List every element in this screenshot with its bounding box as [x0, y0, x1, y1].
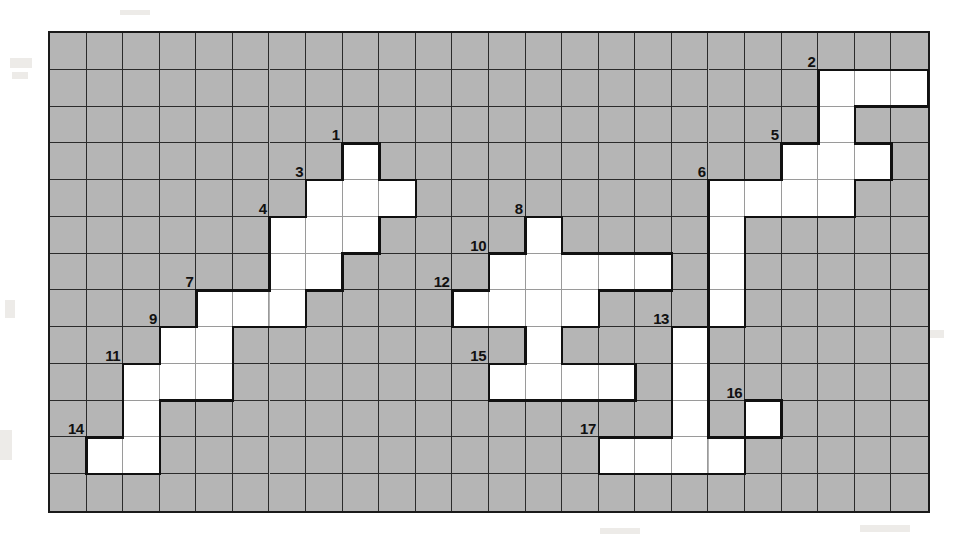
crossword-grid[interactable] — [48, 31, 930, 513]
open-cell[interactable] — [562, 364, 599, 401]
blocked-cell — [233, 33, 270, 70]
blocked-cell — [891, 364, 928, 401]
open-cell[interactable] — [782, 143, 819, 180]
open-cell[interactable] — [452, 290, 489, 327]
blocked-cell — [196, 254, 233, 291]
blocked-cell — [343, 33, 380, 70]
open-cell[interactable] — [489, 364, 526, 401]
open-cell[interactable] — [709, 290, 746, 327]
open-cell[interactable] — [818, 107, 855, 144]
blocked-cell — [891, 327, 928, 364]
paper-speckle — [12, 72, 28, 79]
open-cell[interactable] — [489, 254, 526, 291]
blocked-cell — [672, 180, 709, 217]
cell-outline — [817, 105, 820, 144]
open-cell[interactable] — [270, 217, 307, 254]
cell-outline — [817, 69, 820, 108]
open-cell[interactable] — [306, 217, 343, 254]
blocked-cell — [709, 33, 746, 70]
blocked-cell — [416, 290, 453, 327]
open-cell[interactable] — [599, 254, 636, 291]
open-cell[interactable] — [709, 437, 746, 474]
cell-outline — [634, 473, 673, 476]
cell-outline — [598, 473, 637, 476]
open-cell[interactable] — [562, 290, 599, 327]
cell-outline — [159, 399, 162, 438]
blocked-cell — [160, 290, 197, 327]
open-cell[interactable] — [160, 327, 197, 364]
open-cell[interactable] — [818, 143, 855, 180]
open-cell[interactable] — [87, 437, 124, 474]
open-cell[interactable] — [635, 437, 672, 474]
cell-outline — [561, 326, 564, 365]
open-cell[interactable] — [526, 254, 563, 291]
blocked-cell — [489, 107, 526, 144]
open-cell[interactable] — [306, 180, 343, 217]
open-cell[interactable] — [562, 254, 599, 291]
open-cell[interactable] — [599, 437, 636, 474]
open-cell[interactable] — [672, 364, 709, 401]
open-cell[interactable] — [709, 180, 746, 217]
open-cell[interactable] — [196, 364, 233, 401]
open-cell[interactable] — [343, 180, 380, 217]
open-cell[interactable] — [233, 290, 270, 327]
open-cell[interactable] — [489, 290, 526, 327]
cell-outline — [598, 399, 637, 402]
blocked-cell — [50, 364, 87, 401]
blocked-cell — [379, 437, 416, 474]
open-cell[interactable] — [343, 217, 380, 254]
open-cell[interactable] — [709, 254, 746, 291]
open-cell[interactable] — [343, 143, 380, 180]
cell-outline — [744, 289, 747, 328]
blocked-cell — [855, 107, 892, 144]
open-cell[interactable] — [818, 70, 855, 107]
cell-outline — [561, 326, 600, 329]
open-cell[interactable] — [526, 364, 563, 401]
open-cell[interactable] — [672, 401, 709, 438]
open-cell[interactable] — [123, 437, 160, 474]
open-cell[interactable] — [745, 401, 782, 438]
cell-outline — [341, 252, 380, 255]
blocked-cell — [855, 254, 892, 291]
blocked-cell — [709, 70, 746, 107]
open-cell[interactable] — [379, 180, 416, 217]
open-cell[interactable] — [526, 327, 563, 364]
cell-outline — [195, 289, 234, 292]
blocked-cell — [562, 437, 599, 474]
open-cell[interactable] — [672, 327, 709, 364]
open-cell[interactable] — [745, 180, 782, 217]
open-cell[interactable] — [672, 437, 709, 474]
open-cell[interactable] — [526, 217, 563, 254]
open-cell[interactable] — [599, 364, 636, 401]
open-cell[interactable] — [818, 180, 855, 217]
open-cell[interactable] — [855, 143, 892, 180]
open-cell[interactable] — [270, 254, 307, 291]
open-cell[interactable] — [891, 70, 928, 107]
cell-outline — [378, 216, 381, 255]
open-cell[interactable] — [160, 364, 197, 401]
blocked-cell — [855, 290, 892, 327]
blocked-cell — [891, 474, 928, 511]
open-cell[interactable] — [196, 290, 233, 327]
open-cell[interactable] — [306, 254, 343, 291]
open-cell[interactable] — [855, 70, 892, 107]
open-cell[interactable] — [782, 180, 819, 217]
open-cell[interactable] — [709, 217, 746, 254]
cell-outline — [451, 289, 490, 292]
blocked-cell — [818, 254, 855, 291]
blocked-cell — [672, 70, 709, 107]
open-cell[interactable] — [123, 364, 160, 401]
cell-outline — [305, 289, 308, 328]
blocked-cell — [343, 254, 380, 291]
open-cell[interactable] — [270, 290, 307, 327]
open-cell[interactable] — [526, 290, 563, 327]
open-cell[interactable] — [196, 327, 233, 364]
cell-outline — [927, 69, 930, 108]
blocked-cell — [562, 217, 599, 254]
cell-outline — [671, 326, 674, 365]
blocked-cell — [233, 327, 270, 364]
open-cell[interactable] — [635, 254, 672, 291]
open-cell[interactable] — [123, 401, 160, 438]
cell-outline — [524, 216, 563, 219]
blocked-cell — [855, 217, 892, 254]
